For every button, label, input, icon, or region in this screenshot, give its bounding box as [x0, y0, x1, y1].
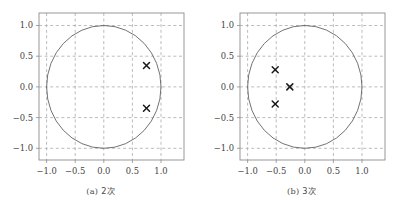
plot-panel-b: 1.0 0.5 0.0 −0.5 −1.0 −1.0 −0.5 0.0 0.5 … [201, 0, 402, 206]
ytick-label-b-3: −0.5 [214, 113, 234, 123]
caption-b-text: 3次 [302, 186, 316, 196]
ytick-label-a-3: −0.5 [13, 113, 33, 123]
xtick-label-b-2: 0.0 [298, 166, 311, 176]
caption-a-text: 2次 [101, 186, 115, 196]
plot-a-svg: 1.0 0.5 0.0 −0.5 −1.0 −1.0 −0.5 0.0 0.5 … [0, 0, 201, 206]
figure-container: 1.0 0.5 0.0 −0.5 −1.0 −1.0 −0.5 0.0 0.5 … [0, 0, 402, 206]
plot-panel-a: 1.0 0.5 0.0 −0.5 −1.0 −1.0 −0.5 0.0 0.5 … [0, 0, 201, 206]
plot-a-gridlines [39, 13, 184, 160]
ytick-label-b-0: 1.0 [221, 20, 234, 30]
ytick-label-b-2: 0.0 [221, 82, 234, 92]
xtick-label-a-3: 0.5 [126, 166, 139, 176]
ytick-label-a-1: 0.5 [20, 51, 33, 61]
plot-b-frame [240, 13, 385, 160]
xtick-label-a-4: 1.0 [154, 166, 167, 176]
xtick-label-b-4: 1.0 [355, 166, 368, 176]
xtick-label-a-1: −0.5 [65, 166, 85, 176]
ytick-label-b-1: 0.5 [221, 51, 234, 61]
plot-b-tickmarks [237, 26, 362, 164]
marker-x-b-1 [272, 67, 278, 73]
plot-a-frame [39, 13, 184, 160]
ytick-label-a-0: 1.0 [20, 20, 33, 30]
plot-a-tickmarks [36, 26, 161, 164]
plot-b-gridlines [240, 13, 385, 160]
caption-panel-b: (b)3次 [201, 184, 402, 196]
ytick-label-b-4: −1.0 [214, 143, 234, 153]
plot-b-svg: 1.0 0.5 0.0 −0.5 −1.0 −1.0 −0.5 0.0 0.5 … [201, 0, 402, 206]
caption-a-label: (a) [86, 186, 98, 196]
marker-x-a-1 [144, 63, 150, 69]
caption-b-label: (b) [287, 186, 299, 196]
marker-x-b-3 [272, 101, 278, 107]
xtick-label-b-3: 0.5 [327, 166, 340, 176]
ytick-label-a-2: 0.0 [20, 82, 33, 92]
xtick-label-a-2: 0.0 [97, 166, 110, 176]
xtick-label-a-0: −1.0 [36, 166, 56, 176]
ytick-label-a-4: −1.0 [13, 143, 33, 153]
xtick-label-b-1: −0.5 [266, 166, 286, 176]
xtick-label-b-0: −1.0 [237, 166, 257, 176]
caption-panel-a: (a)2次 [0, 184, 201, 196]
marker-x-a-2 [144, 105, 150, 111]
